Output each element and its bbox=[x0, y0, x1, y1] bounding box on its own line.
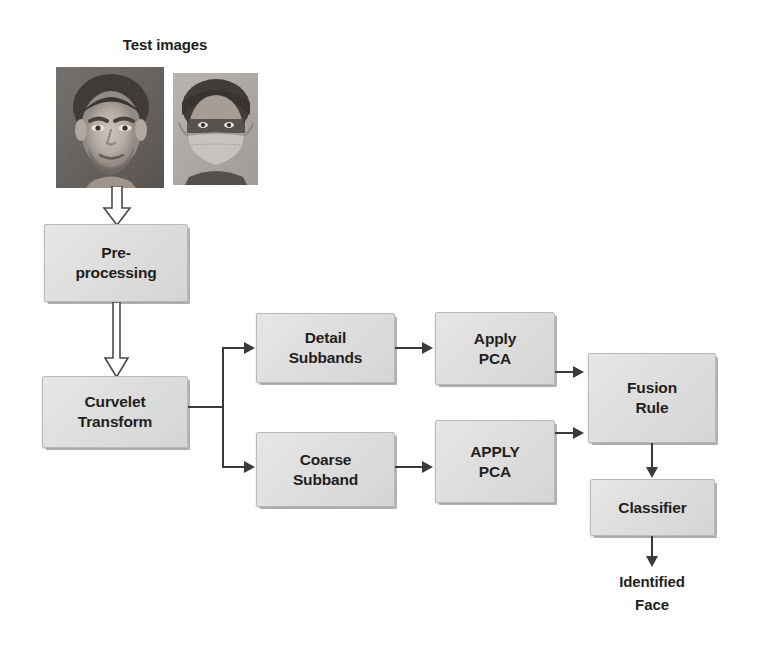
arrowhead-coarse-subband bbox=[244, 461, 255, 473]
node-detail-subbands[interactable]: Detail Subbands bbox=[256, 313, 395, 383]
connector-curvelet-to-coarse bbox=[222, 466, 246, 468]
node-apply-pca-detail[interactable]: Apply PCA bbox=[435, 312, 555, 385]
arrowhead-detail-subbands bbox=[244, 342, 255, 354]
arrowhead-fusion-from-detail bbox=[573, 366, 584, 378]
connector-classifier-to-identified-face bbox=[651, 536, 653, 558]
test-images-title: Test images bbox=[95, 33, 235, 56]
connector-curvelet-branch-vertical bbox=[222, 347, 224, 468]
arrowhead-fusion-from-coarse bbox=[573, 427, 584, 439]
node-apply-pca-coarse[interactable]: APPLY PCA bbox=[435, 420, 555, 503]
connector-curvelet-stem bbox=[188, 406, 224, 408]
node-curvelet-transform[interactable]: Curvelet Transform bbox=[42, 376, 188, 448]
arrowhead-apply-pca-detail bbox=[422, 342, 433, 354]
connector-fusion-to-classifier bbox=[651, 443, 653, 469]
node-classifier[interactable]: Classifier bbox=[590, 479, 715, 536]
flowchart-diagram: Test images bbox=[0, 0, 757, 652]
arrowhead-classifier bbox=[646, 467, 658, 478]
arrowhead-identified-face bbox=[646, 556, 658, 567]
node-preprocessing[interactable]: Pre- processing bbox=[44, 224, 188, 302]
connector-applypca-detail-to-fusion bbox=[555, 371, 575, 373]
masked-face-photo bbox=[173, 73, 258, 185]
arrow-testimages-to-preprocessing bbox=[101, 186, 133, 226]
node-coarse-subband[interactable]: Coarse Subband bbox=[256, 432, 395, 507]
arrowhead-apply-pca-coarse bbox=[422, 461, 433, 473]
node-identified-face: Identified Face bbox=[582, 570, 722, 617]
connector-curvelet-to-detail bbox=[222, 347, 246, 349]
connector-detail-to-applypca bbox=[395, 347, 424, 349]
unmasked-face-photo bbox=[56, 67, 164, 188]
node-fusion-rule[interactable]: Fusion Rule bbox=[588, 353, 716, 443]
arrow-preprocessing-to-curvelet bbox=[103, 302, 131, 378]
connector-coarse-to-applypca bbox=[395, 466, 424, 468]
connector-applypca-coarse-to-fusion bbox=[555, 432, 575, 434]
